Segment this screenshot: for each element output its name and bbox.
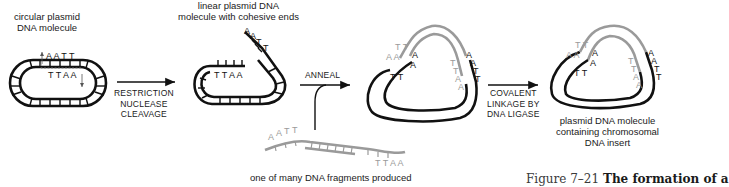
site-top-seq: A A T T	[46, 51, 75, 61]
annealed-molecule: A A T T A A T T T T A A A A T T	[368, 26, 481, 122]
circular-plasmid: A A T T T T A A	[10, 51, 106, 106]
svg-text:A: A	[592, 48, 598, 58]
svg-text:T T A A: T T A A	[375, 158, 404, 168]
svg-text:A A: A A	[386, 52, 400, 62]
svg-text:T T: T T	[390, 72, 404, 82]
svg-text:A: A	[590, 58, 596, 68]
linear-plasmid: T T A A A A T T	[195, 26, 286, 104]
svg-text:A: A	[410, 60, 416, 70]
svg-text:A: A	[412, 50, 418, 60]
svg-text:T: T	[292, 125, 298, 135]
svg-text:T: T	[656, 72, 662, 82]
svg-text:T T: T T	[575, 40, 589, 50]
svg-text:T: T	[263, 43, 269, 53]
svg-text:T: T	[284, 126, 290, 136]
svg-text:T T: T T	[574, 68, 588, 78]
dna-fragment: A A T T T T A A	[265, 125, 405, 168]
site-bottom-seq: T T A A	[48, 70, 77, 80]
svg-text:A: A	[636, 80, 642, 90]
svg-text:A A: A A	[566, 50, 580, 60]
recombinant-plasmid: A A T T A A T T T T A A A A T T	[551, 26, 662, 108]
anneal-arrow	[300, 85, 350, 130]
svg-text:A: A	[276, 128, 282, 138]
svg-text:T: T	[256, 37, 262, 47]
svg-text:A: A	[458, 82, 464, 92]
cohesive-end-bottom: T T A A	[214, 70, 243, 80]
svg-text:T: T	[475, 74, 481, 84]
svg-text:T T: T T	[395, 42, 409, 52]
svg-text:A: A	[268, 132, 274, 142]
